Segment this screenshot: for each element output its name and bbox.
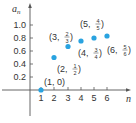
svg-text:(4,: (4, bbox=[78, 48, 89, 58]
data-point bbox=[104, 33, 109, 38]
y-tick-label: 0.2 bbox=[13, 72, 26, 82]
svg-text:3: 3 bbox=[94, 47, 97, 53]
annotation-p6: (6, 5 6 ) bbox=[107, 44, 131, 57]
x-tick-labels: 1 2 3 4 5 6 bbox=[38, 93, 109, 103]
point-annotations: (1, 0) (2, 1 2 ) (3, 2 3 ) (4, 3 4 ) (5 bbox=[44, 18, 131, 88]
svg-text:5: 5 bbox=[96, 25, 99, 31]
x-tick-label: 1 bbox=[38, 93, 43, 103]
svg-text:2: 2 bbox=[65, 31, 68, 37]
svg-text:): ) bbox=[128, 45, 131, 55]
y-ticks bbox=[30, 25, 33, 77]
annotation-p5: (5, 4 5 ) bbox=[80, 18, 104, 31]
svg-text:4: 4 bbox=[96, 18, 99, 24]
y-axis-arrow-icon bbox=[28, 3, 32, 8]
y-tick-label: 0.6 bbox=[13, 46, 26, 56]
x-axis-arrow-icon bbox=[126, 88, 131, 92]
svg-text:): ) bbox=[78, 64, 81, 74]
svg-text:3: 3 bbox=[65, 38, 68, 44]
svg-text:): ) bbox=[101, 19, 104, 29]
svg-text:(5,: (5, bbox=[80, 19, 91, 29]
annotation-p1: (1, 0) bbox=[44, 77, 65, 87]
y-tick-labels: 0.2 0.4 0.6 0.8 1.0 bbox=[13, 20, 26, 82]
svg-text:(6,: (6, bbox=[107, 45, 118, 55]
y-tick-label: 1.0 bbox=[13, 20, 26, 30]
svg-text:4: 4 bbox=[94, 54, 97, 60]
sequence-scatter-chart: 0.2 0.4 0.6 0.8 1.0 1 2 3 4 5 6 an n (1,… bbox=[0, 0, 136, 123]
svg-text:5: 5 bbox=[123, 44, 126, 50]
x-tick-label: 2 bbox=[51, 93, 56, 103]
data-point bbox=[65, 44, 70, 49]
svg-text:(3,: (3, bbox=[49, 32, 60, 42]
y-tick-label: 0.4 bbox=[13, 59, 26, 69]
annotation-p3: (3, 2 3 ) bbox=[49, 31, 73, 44]
x-tick-label: 4 bbox=[78, 93, 83, 103]
data-point bbox=[91, 35, 96, 40]
svg-text:(2,: (2, bbox=[57, 64, 68, 74]
y-tick-label: 0.8 bbox=[13, 33, 26, 43]
svg-text:): ) bbox=[70, 32, 73, 42]
x-tick-label: 5 bbox=[91, 93, 96, 103]
annotation-p2: (2, 1 2 ) bbox=[57, 63, 81, 76]
y-axis-label: an bbox=[12, 3, 21, 16]
annotation-p4: (4, 3 4 ) bbox=[78, 47, 102, 60]
svg-text:2: 2 bbox=[73, 70, 76, 76]
x-tick-label: 6 bbox=[104, 93, 109, 103]
data-point bbox=[51, 55, 56, 60]
svg-text:6: 6 bbox=[123, 51, 126, 57]
svg-text:1: 1 bbox=[73, 63, 76, 69]
data-point bbox=[38, 87, 43, 92]
svg-text:): ) bbox=[99, 48, 102, 58]
x-tick-label: 3 bbox=[65, 93, 70, 103]
x-axis-label: n bbox=[126, 93, 131, 104]
data-point bbox=[78, 38, 83, 43]
